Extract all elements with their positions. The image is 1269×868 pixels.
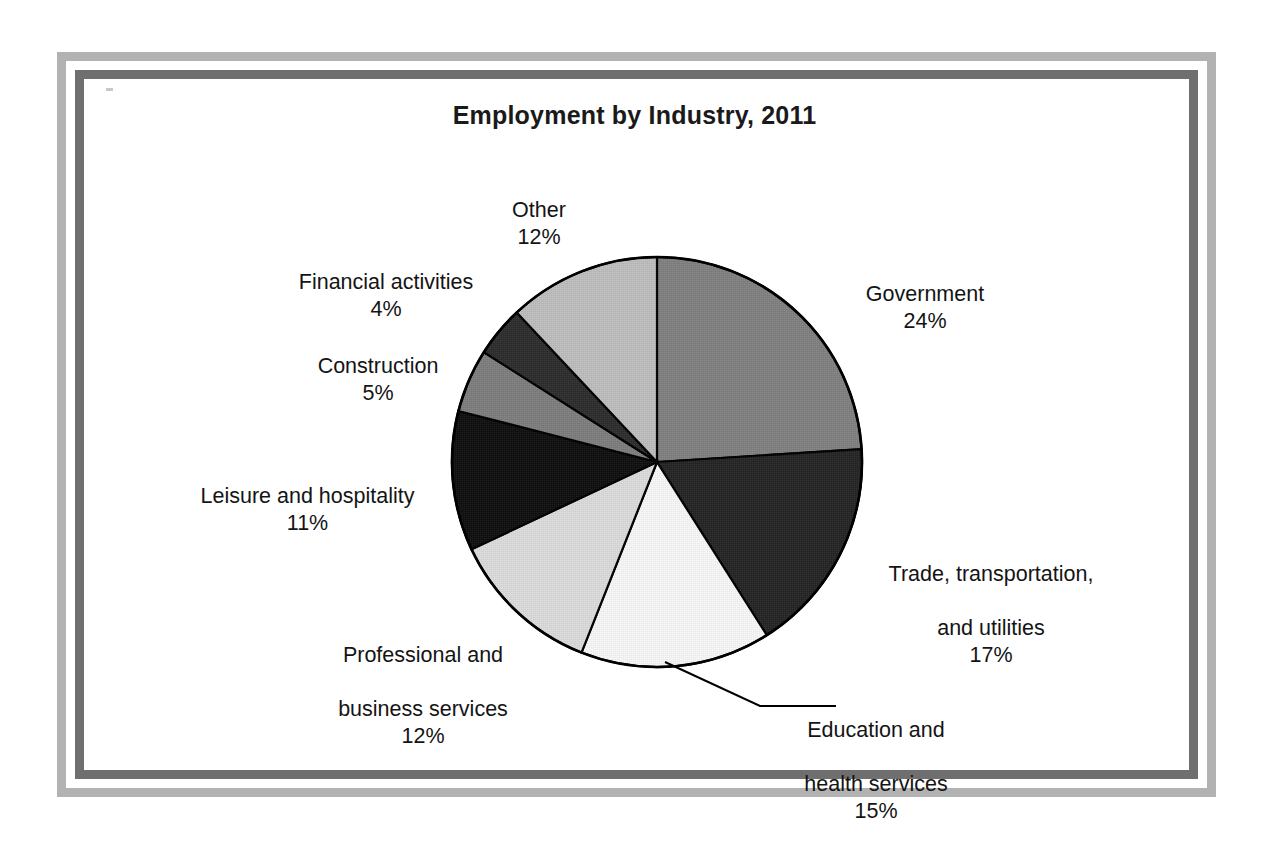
slice-label-leisure-hospitality: Leisure and hospitality 11% <box>190 456 425 564</box>
slice-label-trade-line2: and utilities <box>937 616 1045 640</box>
slice-label-trade-transportation-utilities: Trade, transportation, and utilities 17% <box>856 534 1126 696</box>
slice-label-professional-line1: Professional and <box>343 643 503 667</box>
slice-label-other: Other 12% <box>474 170 604 278</box>
slice-label-construction-text: Construction <box>318 354 439 378</box>
slice-label-government: Government 24% <box>820 254 1030 362</box>
slice-label-financial-text: Financial activities <box>299 270 473 294</box>
slice-label-financial-activities: Financial activities 4% <box>286 242 486 350</box>
slice-label-other-text: Other <box>512 198 566 222</box>
scan-speck <box>106 88 113 91</box>
slice-label-professional-business-services: Professional and business services 12% <box>308 615 538 777</box>
slice-label-financial-value: 4% <box>286 296 486 323</box>
chart-title: Employment by Industry, 2011 <box>0 101 1269 130</box>
chart-page: Employment by Industry, 2011 <box>0 0 1269 868</box>
slice-label-leisure-text: Leisure and hospitality <box>201 484 415 508</box>
slice-label-trade-value: 17% <box>856 642 1126 669</box>
slice-label-professional-line2: business services <box>338 697 508 721</box>
slice-label-education-line2: health services <box>804 772 947 796</box>
slice-label-government-text: Government <box>866 282 984 306</box>
slice-label-professional-value: 12% <box>308 723 538 750</box>
slice-label-leisure-value: 11% <box>190 510 425 537</box>
slice-label-other-value: 12% <box>474 224 604 251</box>
slice-label-education-health-services: Education and health services 15% <box>766 690 986 852</box>
slice-label-trade-line1: Trade, transportation, <box>889 562 1094 586</box>
slice-label-education-line1: Education and <box>807 718 944 742</box>
slice-label-education-value: 15% <box>766 798 986 825</box>
slice-label-construction-value: 5% <box>298 380 458 407</box>
slice-label-government-value: 24% <box>820 308 1030 335</box>
